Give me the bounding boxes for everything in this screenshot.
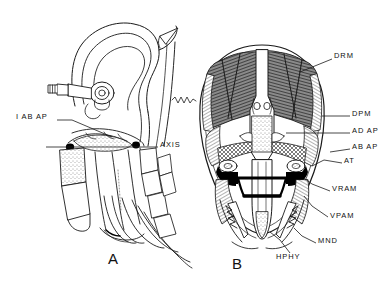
label-vpam: VPAM bbox=[330, 212, 354, 220]
label-drm: DRM bbox=[334, 52, 354, 60]
panel-letter-b: B bbox=[232, 256, 242, 271]
label-ab-ap: AB AP bbox=[352, 143, 378, 151]
label-ad-ap: AD AP bbox=[352, 127, 379, 135]
panel-letter-a: A bbox=[108, 251, 118, 266]
label-i-ab-ap: I AB AP bbox=[16, 113, 48, 121]
label-axis: AXIS bbox=[160, 141, 181, 149]
label-hphy: HPHY bbox=[276, 253, 300, 261]
label-mnd: MND bbox=[318, 237, 338, 245]
label-dpm: DPM bbox=[352, 110, 371, 118]
anatomical-figure: I AB AP AXIS A DRM DPM AD AP AB AP AT VR… bbox=[0, 0, 388, 284]
label-vram: VRAM bbox=[332, 185, 357, 193]
label-at: AT bbox=[344, 157, 355, 165]
